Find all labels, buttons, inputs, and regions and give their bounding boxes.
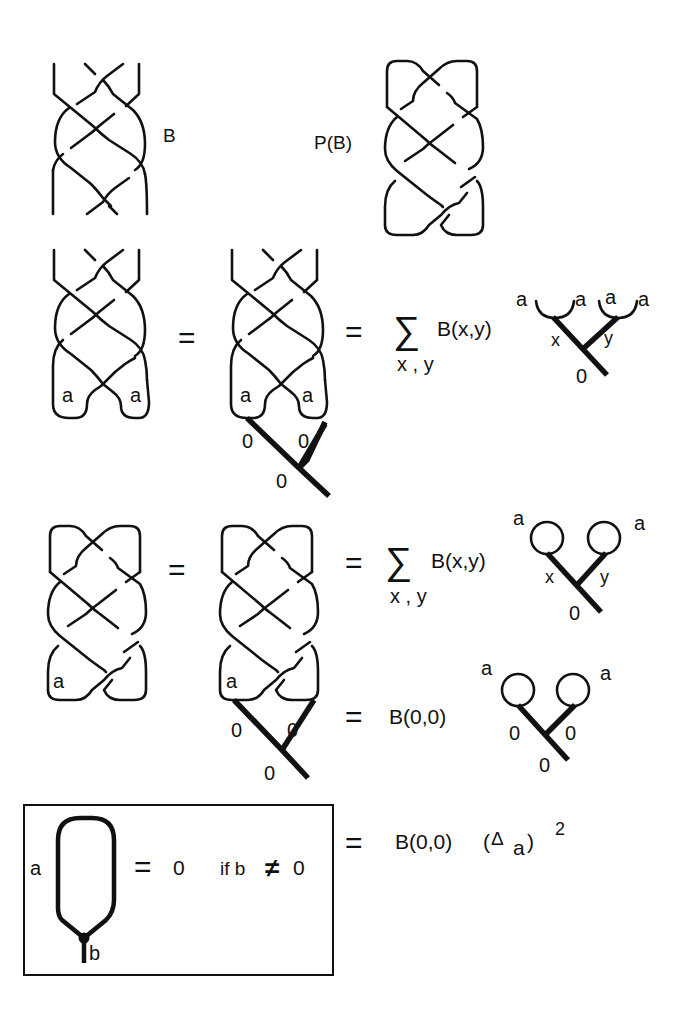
strand-label-a: a <box>634 512 646 534</box>
edge-label-0: 0 <box>287 719 298 741</box>
lemma-box <box>24 805 333 975</box>
edge-label-x: x <box>545 567 554 587</box>
diagram-canvas: B P(B) a a = <box>0 0 679 1034</box>
equals-sign: = <box>345 700 363 733</box>
edge-label-0: 0 <box>565 722 576 744</box>
equals-sign: = <box>345 546 363 579</box>
loop-label-a: a <box>30 857 42 879</box>
stem-label-b: b <box>89 942 100 964</box>
strand-label-a: a <box>302 384 314 406</box>
condition-text: if b <box>220 858 245 879</box>
strand-label-a: a <box>600 662 612 684</box>
lemma-equals: = <box>134 850 152 883</box>
edge-label-0: 0 <box>509 722 520 744</box>
edge-label-x: x <box>551 330 560 350</box>
equals-sign: = <box>178 321 196 354</box>
strand-label-a: a <box>481 657 493 679</box>
strand-label-a: a <box>638 288 650 310</box>
equals-sign: = <box>345 315 363 348</box>
braid-B <box>53 64 147 214</box>
strand-label-a: a <box>240 384 252 406</box>
coefficient: B(x,y) <box>431 549 486 572</box>
edge-label-0: 0 <box>231 719 242 741</box>
delta-close-paren: ) <box>527 830 534 853</box>
strand-label-a: a <box>605 286 617 308</box>
exponent: 2 <box>555 819 565 839</box>
strand-label-a: a <box>226 670 238 692</box>
loop-graph-zero <box>502 674 589 760</box>
strand-label-a: a <box>62 384 74 406</box>
braid-with-graph <box>231 250 329 496</box>
plat-closure-knot <box>385 61 483 235</box>
strand-label-a: a <box>516 288 528 310</box>
delta-subscript: a <box>513 836 525 859</box>
strand-label-a: a <box>130 384 142 406</box>
not-equal-symbol: ≠ <box>265 853 279 883</box>
sum-symbol: ∑ <box>393 309 420 352</box>
equals-sign: = <box>168 553 186 586</box>
plat-closure-label: P(B) <box>314 132 352 153</box>
sum-index: x , y <box>390 585 427 607</box>
edge-label-y: y <box>604 328 613 348</box>
sum-index: x , y <box>397 353 434 375</box>
braid-label-B: B <box>163 125 176 146</box>
sum-symbol: ∑ <box>385 540 412 583</box>
strand-label-a: a <box>513 507 525 529</box>
edge-label-0: 0 <box>539 754 550 776</box>
equals-sign: = <box>345 826 363 859</box>
delta-open-paren: ( <box>483 830 490 853</box>
edge-label-0: 0 <box>576 365 587 387</box>
edge-label-y: y <box>600 567 609 587</box>
strand-label-a: a <box>575 288 587 310</box>
edge-label-0: 0 <box>264 762 275 784</box>
edge-label-0: 0 <box>298 430 309 452</box>
edge-label-0: 0 <box>276 470 287 492</box>
edge-label-0: 0 <box>242 430 253 452</box>
coefficient: B(0,0) <box>389 705 446 728</box>
strand-label-a: a <box>53 670 65 692</box>
delta-symbol: Δ <box>491 828 504 849</box>
condition-value: 0 <box>293 856 305 879</box>
lemma-value: 0 <box>173 856 185 879</box>
edge-label-0: 0 <box>569 602 580 624</box>
coefficient: B(x,y) <box>437 317 492 340</box>
coefficient: B(0,0) <box>395 830 452 853</box>
